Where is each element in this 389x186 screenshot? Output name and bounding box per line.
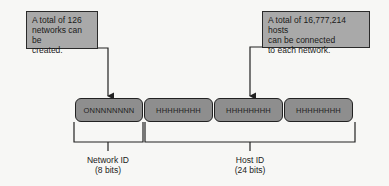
callout-line: created.: [32, 45, 92, 55]
network-id-title: Network ID: [78, 155, 138, 165]
callout-line: networks can be: [32, 25, 92, 45]
network-id-label: Network ID (8 bits): [78, 155, 138, 175]
octet-host-1: HHHHHHHH: [144, 98, 213, 122]
network-id-bits: (8 bits): [78, 165, 138, 175]
network-arrow: [97, 48, 108, 96]
host-id-title: Host ID: [220, 155, 280, 165]
host-id-label: Host ID (24 bits): [220, 155, 280, 175]
octet-network: ONNNNNNNN: [75, 98, 143, 122]
host-bracket: [145, 122, 355, 142]
octet-host-3: HHHHHHHH: [284, 98, 353, 122]
callout-line: A total of 126: [32, 15, 92, 25]
callout-line: to each network.: [268, 45, 364, 55]
host-id-bits: (24 bits): [220, 165, 280, 175]
host-callout: A total of 16,777,214 hosts can be conne…: [262, 11, 370, 48]
callout-line: can be connected: [268, 35, 364, 45]
octet-host-2: HHHHHHHH: [214, 98, 283, 122]
network-callout: A total of 126 networks can be created.: [26, 11, 98, 49]
host-arrow: [250, 47, 262, 96]
network-bracket: [74, 122, 143, 142]
callout-line: A total of 16,777,214 hosts: [268, 15, 364, 35]
